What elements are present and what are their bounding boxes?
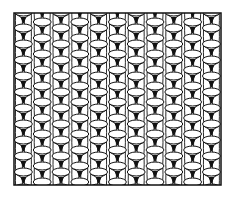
stitch-cells	[0, 0, 233, 199]
knit-pattern-illustration	[0, 0, 233, 199]
